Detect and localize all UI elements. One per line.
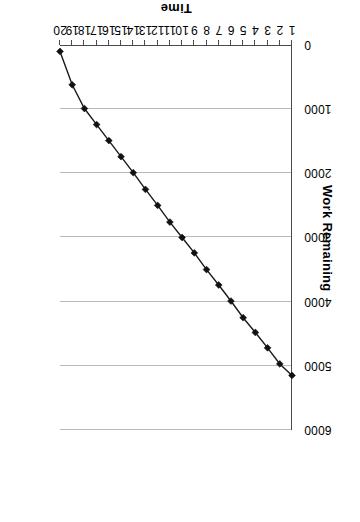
series-line xyxy=(60,51,292,375)
x-axis-tick-mark xyxy=(157,40,158,45)
burndown-chart: 0100020003000400050006000 12345678910111… xyxy=(0,0,360,522)
x-axis-tick-mark xyxy=(181,40,182,45)
y-axis-tick-label: 5000 xyxy=(304,360,360,372)
x-axis-tick-mark xyxy=(144,40,145,45)
y-axis-tick-label: 2000 xyxy=(304,167,360,179)
series-markers xyxy=(57,48,296,379)
x-axis-tick-mark xyxy=(291,40,292,45)
x-axis-tick-mark xyxy=(71,40,72,45)
x-axis-tick-mark xyxy=(230,40,231,45)
x-axis-tick-mark xyxy=(206,40,207,45)
x-axis-tick-mark xyxy=(193,40,194,45)
x-axis-tick-mark xyxy=(83,40,84,45)
y-axis-tick-label: 0 xyxy=(304,39,360,51)
x-axis-tick-mark xyxy=(254,40,255,45)
plot-area xyxy=(60,45,292,430)
x-axis-tick-mark xyxy=(279,40,280,45)
x-axis-tick-mark xyxy=(108,40,109,45)
data-point-marker xyxy=(69,81,76,88)
x-axis-tick-mark xyxy=(218,40,219,45)
x-axis-tick-mark xyxy=(242,40,243,45)
data-point-marker xyxy=(57,48,64,55)
x-axis-tick-mark xyxy=(132,40,133,45)
x-axis-tick-mark xyxy=(169,40,170,45)
y-axis-tick-label: 4000 xyxy=(304,296,360,308)
y-axis-title: Work Remaining xyxy=(320,186,334,293)
x-axis-tick-label: 20 xyxy=(51,24,69,36)
x-axis-tick-mark xyxy=(59,40,60,45)
x-axis-tick-mark xyxy=(120,40,121,45)
series-layer xyxy=(60,45,292,430)
y-axis-tick-label: 6000 xyxy=(304,424,360,436)
rotated-chart-wrapper: 0100020003000400050006000 12345678910111… xyxy=(0,0,360,522)
x-axis-tick-mark xyxy=(96,40,97,45)
y-axis-tick-label: 1000 xyxy=(304,103,360,115)
x-axis-tick-mark xyxy=(267,40,268,45)
x-axis-title: Time xyxy=(60,1,292,15)
